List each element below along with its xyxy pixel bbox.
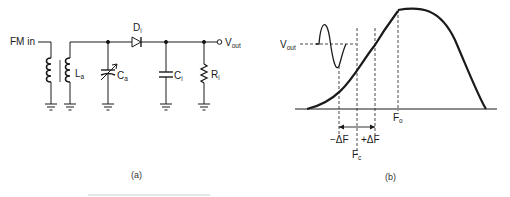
fm-in-label: FM in (10, 36, 35, 47)
ground-icon (45, 104, 210, 110)
secondary-coil-icon (66, 58, 71, 82)
output-terminal-icon (217, 40, 222, 45)
di-label: Di (133, 22, 142, 34)
variable-arrow-icon (101, 64, 117, 80)
caption-b: (b) (385, 172, 396, 182)
minus-df-label: −ΔF (330, 134, 349, 145)
ci-label: Ci (174, 70, 183, 82)
resistor-icon (201, 64, 207, 83)
caption-a: (a) (131, 170, 142, 180)
primary-coil-icon (47, 58, 52, 82)
circuit-diagram (38, 37, 222, 110)
response-curve-diagram (295, 8, 497, 155)
diode-icon (132, 37, 141, 47)
plus-df-label: +ΔF (361, 134, 380, 145)
ri-label: Ri (211, 69, 220, 81)
input-wire (38, 42, 51, 58)
ca-label: Ca (117, 70, 128, 82)
figure-canvas: FM in La Ca Di Ci Ri Vout (a) Vout −ΔF +… (0, 0, 510, 197)
la-label: La (75, 68, 85, 80)
curve-vout-label: Vout (280, 39, 296, 51)
fc-label: Fc (352, 149, 362, 161)
vout-waveform (316, 25, 346, 68)
fo-label: Fo (393, 112, 403, 124)
vout-label: Vout (225, 37, 241, 49)
